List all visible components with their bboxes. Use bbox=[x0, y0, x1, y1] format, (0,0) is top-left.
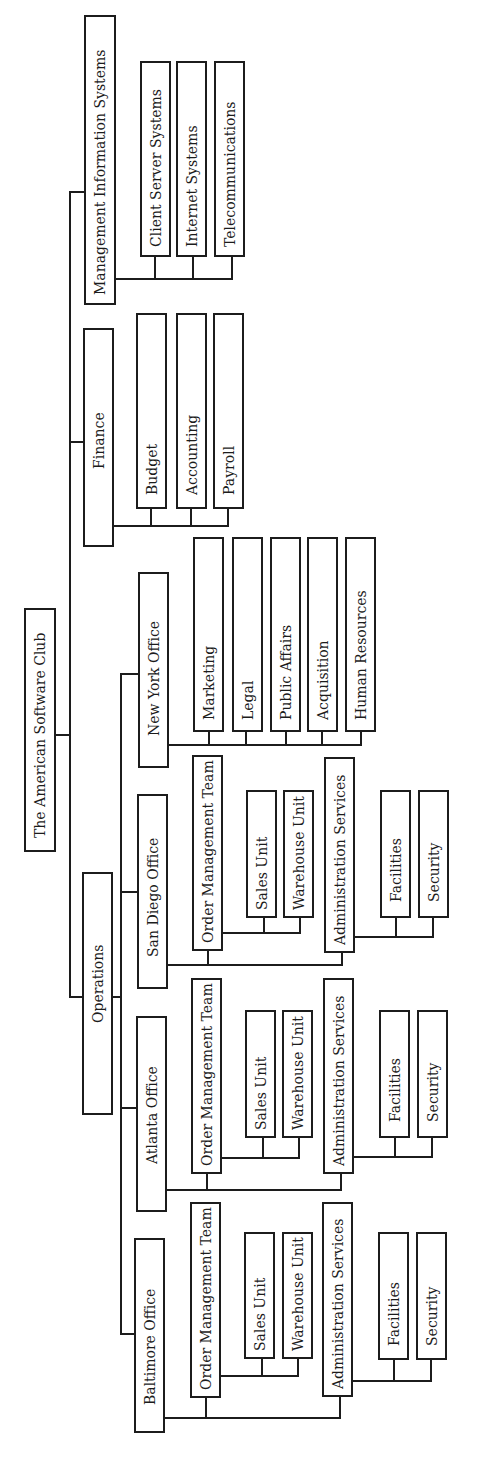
org-node-label: Sales Unit bbox=[254, 1057, 268, 1130]
org-node-label: Finance bbox=[92, 412, 106, 469]
org-node-sd-admin: Administration Services bbox=[324, 757, 355, 953]
org-node-label: Security bbox=[426, 1063, 440, 1122]
org-node-label: San Diego Office bbox=[146, 838, 160, 957]
org-node-label: Human Resources bbox=[354, 590, 368, 720]
connector-line bbox=[221, 1157, 300, 1159]
org-node-label: Operations bbox=[91, 945, 105, 1024]
connector-line bbox=[205, 1397, 207, 1419]
org-node-label: Marketing bbox=[202, 646, 216, 720]
org-node-label: Order Management Team bbox=[201, 760, 215, 943]
org-chart-canvas: The American Software ClubManagement Inf… bbox=[0, 0, 483, 1479]
connector-line bbox=[192, 256, 194, 280]
connector-line bbox=[245, 731, 247, 746]
org-node-label: Telecommunications bbox=[223, 101, 237, 247]
connector-line bbox=[167, 964, 343, 966]
org-node-label: Baltimore Office bbox=[143, 1289, 157, 1405]
connector-line bbox=[341, 952, 343, 966]
org-node-bal-facilities: Facilities bbox=[378, 1232, 409, 1360]
connector-line bbox=[114, 525, 229, 527]
org-node-label: Atlanta Office bbox=[145, 1066, 159, 1164]
org-node-ny-public: Public Affairs bbox=[270, 537, 301, 732]
org-node-label: Facilities bbox=[387, 1282, 401, 1346]
org-node-root: The American Software Club bbox=[24, 608, 56, 852]
org-node-label: Accounting bbox=[185, 415, 199, 495]
org-node-ny-marketing: Marketing bbox=[193, 537, 224, 732]
org-node-label: Budget bbox=[145, 444, 159, 495]
org-node-bal-omt: Order Management Team bbox=[190, 1202, 221, 1398]
connector-line bbox=[393, 1359, 395, 1382]
org-node-label: Legal bbox=[241, 681, 255, 720]
connector-line bbox=[321, 731, 323, 746]
org-node-label: Administration Services bbox=[332, 996, 346, 1166]
org-node-label: Sales Unit bbox=[253, 1278, 267, 1351]
org-node-mis-internet: Internet Systems bbox=[176, 61, 207, 257]
org-node-label: Facilities bbox=[389, 838, 403, 902]
org-node-bal-security: Security bbox=[416, 1232, 447, 1360]
connector-line bbox=[115, 278, 233, 280]
connector-line bbox=[69, 191, 71, 998]
org-node-label: Public Affairs bbox=[279, 625, 293, 720]
org-node-label: The American Software Club bbox=[33, 633, 47, 838]
connector-line bbox=[231, 256, 233, 280]
org-node-ny-hr: Human Resources bbox=[345, 537, 376, 732]
connector-line bbox=[297, 1358, 299, 1377]
connector-line bbox=[432, 917, 434, 938]
connector-line bbox=[121, 1107, 136, 1109]
org-node-label: New York Office bbox=[147, 621, 161, 736]
connector-line bbox=[353, 1156, 433, 1158]
org-node-label: Facilities bbox=[388, 1058, 402, 1122]
connector-line bbox=[263, 917, 265, 934]
org-node-sd-sales: Sales Unit bbox=[246, 790, 277, 918]
connector-line bbox=[285, 731, 287, 746]
org-node-sd-omt: Order Management Team bbox=[192, 755, 223, 951]
org-node-bal: Baltimore Office bbox=[134, 1238, 165, 1433]
org-node-label: Management Information Systems bbox=[93, 50, 107, 295]
org-node-ny-legal: Legal bbox=[232, 537, 263, 732]
connector-line bbox=[208, 731, 210, 746]
connector-line bbox=[360, 731, 362, 746]
connector-line bbox=[165, 1417, 341, 1419]
org-node-ny: New York Office bbox=[138, 572, 169, 768]
org-node-label: Sales Unit bbox=[255, 837, 269, 910]
org-node-atl-sales: Sales Unit bbox=[245, 1010, 276, 1138]
connector-line bbox=[222, 932, 301, 934]
org-node-ny-acquisition: Acquisition bbox=[307, 537, 338, 732]
org-node-sd: San Diego Office bbox=[137, 794, 168, 989]
org-node-label: Order Management Team bbox=[199, 1207, 213, 1390]
org-node-fin-payroll: Payroll bbox=[213, 313, 244, 509]
connector-line bbox=[121, 673, 138, 675]
org-node-label: Client Server Systems bbox=[149, 89, 163, 247]
connector-line bbox=[430, 1359, 432, 1382]
connector-line bbox=[340, 1173, 342, 1191]
org-node-bal-warehouse: Warehouse Unit bbox=[282, 1232, 313, 1359]
org-node-mis: Management Information Systems bbox=[84, 15, 116, 305]
connector-line bbox=[121, 891, 137, 893]
org-node-sd-facilities: Facilities bbox=[380, 790, 411, 918]
org-node-bal-admin: Administration Services bbox=[322, 1202, 353, 1397]
org-node-label: Security bbox=[427, 843, 441, 902]
org-node-label: Warehouse Unit bbox=[291, 1016, 305, 1130]
org-node-fin-accounting: Accounting bbox=[176, 313, 207, 509]
org-node-mis-client: Client Server Systems bbox=[140, 61, 171, 257]
connector-line bbox=[395, 917, 397, 938]
connector-line bbox=[206, 1173, 208, 1191]
org-node-atl-admin: Administration Services bbox=[323, 978, 354, 1174]
connector-line bbox=[190, 508, 192, 527]
org-node-atl-security: Security bbox=[417, 1010, 448, 1138]
org-node-label: Acquisition bbox=[316, 640, 330, 720]
connector-line bbox=[227, 508, 229, 527]
connector-line bbox=[261, 1358, 263, 1377]
connector-line bbox=[150, 508, 152, 527]
org-node-label: Administration Services bbox=[333, 775, 347, 945]
connector-line bbox=[121, 1333, 134, 1335]
org-node-label: Warehouse Unit bbox=[292, 796, 306, 910]
org-node-sd-security: Security bbox=[418, 790, 449, 918]
org-node-label: Order Management Team bbox=[200, 983, 214, 1166]
connector-line bbox=[394, 1137, 396, 1158]
connector-line bbox=[70, 441, 83, 443]
connector-line bbox=[120, 673, 122, 1335]
connector-line bbox=[166, 1189, 342, 1191]
org-node-atl: Atlanta Office bbox=[136, 1016, 167, 1212]
connector-line bbox=[70, 996, 82, 998]
connector-line bbox=[207, 950, 209, 966]
